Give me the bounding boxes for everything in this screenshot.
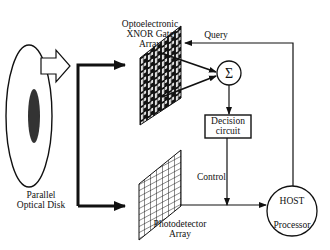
xnor-label-line3: Array — [110, 39, 190, 49]
optical-disk-system-diagram: Σ Optoelectronic XNOR Gate Array Query D… — [0, 0, 330, 250]
control-label: Control — [188, 172, 226, 182]
xnor-array-label: Optoelectronic XNOR Gate Array — [110, 19, 190, 49]
processor-label: Processor — [267, 220, 317, 230]
disk-label-line2: Optical Disk — [8, 200, 74, 210]
decision-circuit-label: Decision circuit — [205, 116, 251, 136]
decision-label-line1: Decision — [205, 116, 251, 126]
disk-label-line1: Parallel — [8, 190, 74, 200]
disk-data-bus — [78, 65, 125, 206]
decision-label-line2: circuit — [205, 126, 251, 136]
sum-symbol: Σ — [225, 66, 233, 81]
xnor-label-line2: XNOR Gate — [110, 29, 190, 39]
photodetector-label: Photodetector Array — [135, 219, 225, 239]
photodetector-label-line2: Array — [135, 229, 225, 239]
xnor-label-line1: Optoelectronic — [110, 19, 190, 29]
host-label: HOST — [267, 196, 317, 206]
query-label: Query — [196, 30, 236, 40]
optical-disk-label: Parallel Optical Disk — [8, 190, 74, 210]
photodetector-label-line1: Photodetector — [135, 219, 225, 229]
